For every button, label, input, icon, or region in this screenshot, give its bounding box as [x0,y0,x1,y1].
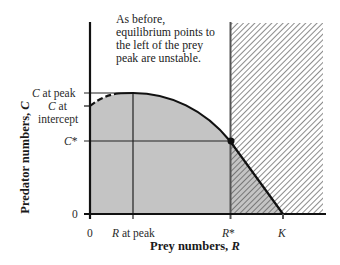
var-r: R [112,227,119,239]
x-axis-title: Prey numbers, R [150,239,240,254]
x-axis-title-var: R [231,239,239,253]
suffix: * [72,135,78,147]
y-tick-label-c-at-intercept-line1: C at [48,100,67,112]
x-tick-label-r-at-peak: R at peak [112,227,155,239]
var-r: R [222,227,229,239]
y-axis-title-text: Predator numbers, [18,110,32,214]
var-c: C [64,135,72,147]
zero: 0 [87,227,93,239]
x-tick-label-k: K [278,227,286,239]
suffix: * [229,227,235,239]
annotation-text: As before, equilibrium points to the lef… [116,13,215,65]
y-tick-label-cstar: C* [64,135,77,147]
var-c: C [32,87,40,99]
suffix: at peak [40,87,76,99]
y-tick-label-zero: 0 [72,208,78,220]
suffix: at [56,100,67,112]
var-c: C [48,100,56,112]
x-axis-title-text: Prey numbers, [150,239,231,253]
equilibrium-point [228,138,235,145]
isocline-area-left [90,93,230,214]
annotation-line-4: peak are unstable. [116,52,215,65]
x-tick-label-zero: 0 [87,227,93,239]
y-axis-title: Predator numbers, C [18,93,33,223]
y-axis-title-var: C [18,101,32,109]
y-tick-label-c-at-peak: C at peak [32,87,75,99]
x-tick-label-rstar: R* [222,227,235,239]
intercept-word: intercept [38,113,78,125]
var-k: K [278,227,286,239]
y-tick-label-c-at-intercept-line2: intercept [38,113,78,125]
suffix: at peak [119,227,155,239]
zero: 0 [72,208,78,220]
